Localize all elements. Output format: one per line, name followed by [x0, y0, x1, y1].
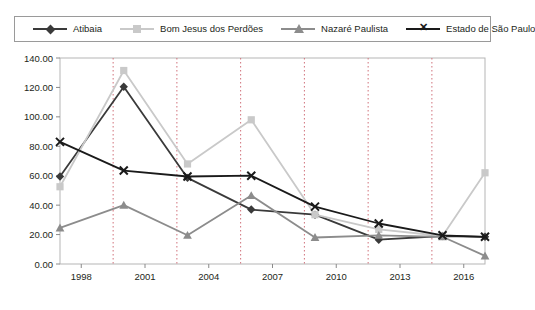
- legend-square-icon: [120, 23, 154, 35]
- series-marker-2-3: [247, 191, 256, 199]
- chart-legend: AtibaiaBom Jesus dos PerdõesNazaré Pauli…: [14, 16, 491, 42]
- legend-item-1: Bom Jesus dos Perdões: [120, 17, 263, 41]
- y-tick-label-5: 100.00: [24, 111, 53, 122]
- plot-area: 0.0020.0040.0060.0080.00100.00120.00140.…: [14, 50, 491, 298]
- legend-item-label: Atibaia: [73, 24, 102, 34]
- series-line-estado-de-s-o-paulo: [60, 142, 485, 237]
- x-tick-label-6: 2016: [453, 271, 474, 282]
- line-chart: 0.0020.0040.0060.0080.00100.00120.00140.…: [14, 50, 491, 298]
- legend-item-3: ✕Estado de São Paulo: [406, 17, 535, 41]
- y-tick-label-4: 80.00: [29, 141, 53, 152]
- series-marker-1-2: [184, 160, 191, 167]
- y-tick-label-0: 0.00: [35, 259, 54, 270]
- series-marker-0-3: [247, 205, 255, 213]
- legend-x-icon: ✕: [406, 23, 440, 35]
- legend-item-label: Nazaré Paulista: [321, 24, 388, 34]
- y-tick-label-7: 140.00: [24, 53, 53, 64]
- x-tick-label-5: 2013: [389, 271, 410, 282]
- legend-diamond-icon: [33, 23, 67, 35]
- x-tick-label-4: 2010: [326, 271, 347, 282]
- series-marker-1-1: [120, 67, 127, 74]
- series-marker-1-3: [248, 116, 255, 123]
- x-tick-label-3: 2007: [262, 271, 283, 282]
- series-marker-1-0: [56, 183, 63, 190]
- series-marker-2-2: [183, 231, 192, 239]
- y-tick-label-2: 40.00: [29, 200, 53, 211]
- series-marker-1-7: [481, 169, 488, 176]
- y-tick-label-1: 20.00: [29, 229, 53, 240]
- series-marker-1-4: [311, 211, 318, 218]
- series-marker-2-1: [119, 201, 128, 209]
- x-tick-label-0: 1998: [71, 271, 92, 282]
- legend-item-0: Atibaia: [33, 17, 102, 41]
- series-line-atibaia: [60, 87, 485, 240]
- x-tick-label-2: 2004: [198, 271, 219, 282]
- legend-item-2: Nazaré Paulista: [281, 17, 388, 41]
- legend-triangle-icon: [281, 23, 315, 35]
- y-tick-label-6: 120.00: [24, 82, 53, 93]
- legend-item-label: Estado de São Paulo: [446, 24, 535, 34]
- legend-item-label: Bom Jesus dos Perdões: [160, 24, 263, 34]
- x-tick-label-1: 2001: [134, 271, 155, 282]
- y-tick-label-3: 60.00: [29, 170, 53, 181]
